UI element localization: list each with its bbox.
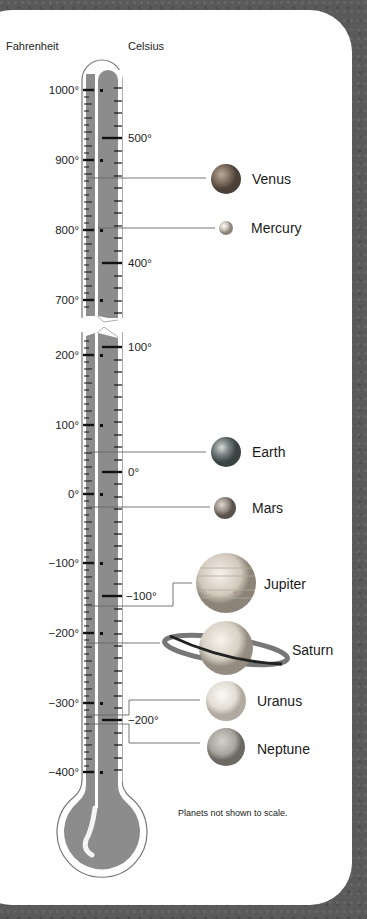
celsius-label-500: 500°: [128, 132, 152, 144]
planet-label-uranus: Uranus: [257, 693, 302, 709]
planet-label-venus: Venus: [252, 171, 291, 187]
fahrenheit-label-1000: 1000°: [49, 84, 79, 96]
fahrenheit-label-900: 900°: [55, 154, 79, 166]
planet-label-earth: Earth: [252, 444, 285, 460]
fahrenheit-label-neg200: −200°: [48, 627, 79, 639]
celsius-label-neg100: −100°: [126, 590, 157, 602]
planet-jupiter-icon: [196, 553, 256, 613]
fahrenheit-label-100: 100°: [55, 419, 79, 431]
celsius-label-400: 400°: [128, 257, 152, 269]
mercury-column-upper: [98, 70, 118, 320]
fahrenheit-label-neg400: −400°: [48, 766, 79, 778]
planet-mars-icon: [214, 497, 236, 519]
planet-earth-icon: [211, 437, 241, 467]
fahrenheit-label-0: 0°: [68, 488, 79, 500]
scale-note: Planets not shown to scale.: [178, 808, 288, 818]
celsius-label-neg200: −200°: [128, 714, 159, 726]
planet-mercury-icon: [219, 221, 233, 235]
thermometer-graphic: [0, 0, 367, 919]
planet-neptune-icon: [207, 728, 245, 766]
planet-label-mars: Mars: [252, 500, 283, 516]
fahrenheit-label-neg100: −100°: [48, 557, 79, 569]
planet-label-mercury: Mercury: [251, 220, 302, 236]
planet-label-saturn: Saturn: [292, 642, 333, 658]
celsius-label-0: 0°: [128, 466, 139, 478]
celsius-label-100: 100°: [128, 341, 152, 353]
fahrenheit-label-200: 200°: [55, 349, 79, 361]
fahrenheit-label-neg300: −300°: [48, 697, 79, 709]
fahrenheit-label-800: 800°: [55, 224, 79, 236]
planet-saturn-icon: [163, 621, 289, 675]
planet-venus-icon: [211, 164, 241, 194]
fahrenheit-label-700: 700°: [55, 294, 79, 306]
planet-uranus-icon: [206, 681, 246, 721]
planet-label-jupiter: Jupiter: [264, 576, 306, 592]
planet-label-neptune: Neptune: [257, 741, 310, 757]
